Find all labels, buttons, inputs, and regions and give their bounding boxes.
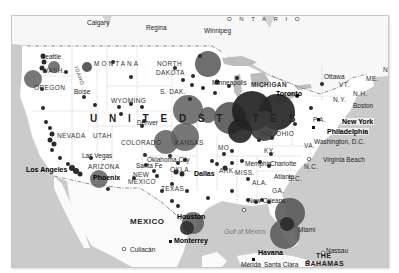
city-ottawa: Ottawa [324,74,345,81]
city-charlotte: Charlotte [270,161,296,168]
label-texas: TEXAS [161,186,184,193]
label-kansas: KANSAS [175,140,204,147]
label-montana: MONTANA [94,61,140,68]
city-las-vegas: Las Vegas [82,153,112,160]
label-united-states: U N I T E D S T A T E S [90,114,300,124]
label-ark: ARK. [219,168,236,175]
city-boise: Boise [74,89,90,96]
label-nh: N.H. [353,91,368,98]
label-nc: N.C. [304,164,319,171]
city-monterrey: Monterrey [173,237,209,244]
label-north: NORTH [157,61,182,68]
label-utah: UTAH [93,133,112,140]
label-nevada: NEVADA [57,133,86,140]
label-ny: N.Y. [333,97,346,104]
city-memphis: Memphis [245,161,271,168]
city-santa-clara: Santa Clara [264,262,298,268]
label-miss: MISS. [235,170,255,177]
city-nassau: Nassau [326,248,348,255]
city-houston: Houston [176,213,206,220]
label-gulf-of-mexico: Gulf of Mexico [224,229,266,236]
label-michigan: MICHIGAN [251,82,287,89]
city-miami: Miami [298,227,315,234]
label-mexico: MEXICO [130,218,165,226]
city-toronto: Toronto [275,90,303,97]
city-new-york: New York [341,118,374,125]
city-santa-fe: Santa Fe [136,163,162,170]
label-wyoming: WYOMING [111,98,146,105]
label-ala: ALA. [252,180,268,187]
label-oregon: OREGON [34,85,65,92]
city-denver: Denver [137,120,158,127]
city-virginia-beach: Virginia Beach [323,157,365,164]
label-ky: KY. [264,148,275,155]
label-mo: MO. [218,145,231,152]
label-vt: VT. [339,82,350,89]
label-ind: IND. [260,131,275,138]
map-frame[interactable]: O N T A R I O U N I T E D S T A T E S ME… [11,15,389,268]
city-oklahoma-city: Oklahoma City [147,157,190,164]
label-arizona: ARIZONA [88,164,120,171]
label-colorado: COLORADO [121,140,161,147]
label-nb: N.B. [383,67,389,74]
city-merida: Mérida [241,262,261,268]
city-phoenix: Phoenix [92,174,121,181]
label-new-mexico: MEXICO [128,179,156,186]
city-regina: Regina [146,25,167,32]
city-minneapolis: Minneapolis [212,80,247,87]
city-boston: Boston [353,103,373,110]
label-wash: WASH. [42,68,65,75]
city-calgary: Calgary [87,20,109,27]
label-ohio: OHIO [276,131,294,138]
city-los-angeles: Los Angeles [25,166,68,173]
city-atlanta: Atlanta [274,174,294,181]
city-philadelphia: Philadelphia [326,128,369,135]
city-washington-dc: Washington, D.C. [314,139,365,146]
city-culiacan: Culiacán [130,247,155,254]
label-okla: OKLA. [170,167,191,174]
city-seattle: Seattle [41,54,61,61]
city-winnipeg: Winnipeg [204,28,231,35]
label-bahamas-2: BAHAMAS [305,260,344,267]
label-ontario: O N T A R I O [227,16,302,22]
label-me: ME. [366,76,379,83]
city-new-orleans: New Orleans [248,198,286,205]
city-havana: Havana [257,249,284,256]
label-s-dak: S. DAK. [160,89,186,96]
label-ga: GA. [272,188,284,195]
label-dakota: DAKOTA [156,70,185,77]
label-pa: P.A. [313,117,326,124]
city-dallas: Dallas [193,170,216,177]
